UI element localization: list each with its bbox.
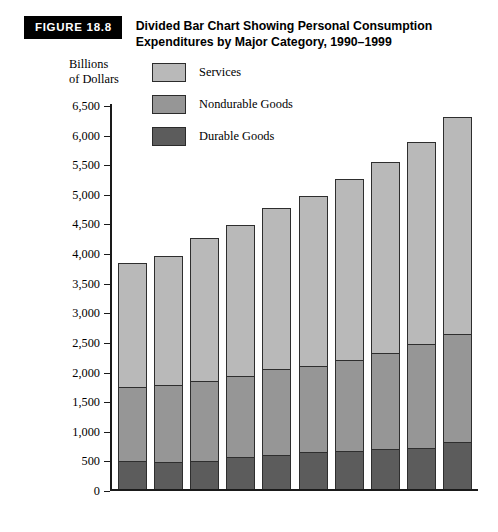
y-axis-line — [110, 104, 112, 491]
y-axis-tick-label: 3,000 — [72, 306, 100, 321]
bar-segment-services — [443, 117, 472, 334]
bar-segment-durable-goods — [443, 442, 472, 489]
y-axis-tick — [104, 106, 110, 107]
y-axis-tick — [104, 432, 110, 433]
legend-item-services: Services — [152, 63, 293, 82]
y-axis-tick — [104, 343, 110, 344]
y-axis-tick — [104, 224, 110, 225]
bar-segment-nondurable-goods — [407, 344, 436, 448]
bar-segment-nondurable-goods — [262, 369, 291, 454]
bar-segment-nondurable-goods — [190, 381, 219, 461]
y-axis-tick — [104, 461, 110, 462]
y-axis-tick-label: 2,000 — [72, 365, 100, 380]
y-axis-tick — [104, 402, 110, 403]
bar-segment-services — [262, 208, 291, 369]
bar-group — [114, 104, 476, 489]
bar-1997 — [371, 162, 400, 489]
bar-segment-nondurable-goods — [335, 360, 364, 451]
y-axis-tick — [104, 373, 110, 374]
bar-segment-nondurable-goods — [371, 353, 400, 449]
bar-segment-services — [335, 179, 364, 361]
bar-1993 — [226, 225, 255, 489]
bar-segment-services — [371, 162, 400, 353]
bar-segment-durable-goods — [118, 461, 147, 489]
y-axis-tick — [104, 491, 110, 492]
bar-1990 — [118, 263, 147, 489]
y-axis-tick — [104, 165, 110, 166]
y-axis-tick-label: 5,000 — [72, 187, 100, 202]
bar-1999 — [443, 117, 472, 489]
bar-segment-nondurable-goods — [118, 387, 147, 461]
legend-swatch-icon — [152, 63, 186, 82]
bar-segment-durable-goods — [190, 461, 219, 489]
y-axis-title-line-2: of Dollars — [69, 72, 119, 87]
y-axis-tick-label: 2,500 — [72, 335, 100, 350]
bar-segment-nondurable-goods — [226, 376, 255, 457]
bar-segment-services — [154, 256, 183, 385]
figure-title-line-2: Expenditures by Major Category, 1990–199… — [136, 34, 433, 50]
figure-number-badge: FIGURE 18.8 — [24, 16, 122, 39]
y-axis-tick — [104, 136, 110, 137]
bar-segment-services — [118, 263, 147, 387]
y-axis-tick-label: 4,500 — [72, 217, 100, 232]
bar-segment-services — [299, 196, 328, 366]
bar-segment-durable-goods — [407, 448, 436, 489]
y-axis-tick-label: 6,500 — [72, 99, 100, 114]
legend-label: Services — [199, 65, 241, 80]
bar-segment-nondurable-goods — [443, 334, 472, 442]
bar-1998 — [407, 142, 436, 489]
y-axis-tick — [104, 195, 110, 196]
figure-title: Divided Bar Chart Showing Personal Consu… — [136, 16, 433, 51]
bar-1995 — [299, 196, 328, 489]
y-axis-tick-label: 4,000 — [72, 247, 100, 262]
x-axis-baseline — [110, 489, 478, 491]
bar-segment-durable-goods — [262, 455, 291, 489]
y-axis-tick-label: 5,500 — [72, 158, 100, 173]
y-axis-title: Billions of Dollars — [69, 57, 119, 87]
bar-segment-durable-goods — [299, 452, 328, 489]
y-axis-tick-label: 6,000 — [72, 128, 100, 143]
bar-segment-durable-goods — [226, 457, 255, 489]
bar-segment-services — [407, 142, 436, 344]
chart-plot-area: 05001,0001,5002,0002,5003,0003,5004,0004… — [110, 104, 478, 491]
figure-header: FIGURE 18.8 Divided Bar Chart Showing Pe… — [24, 16, 476, 51]
figure-title-line-1: Divided Bar Chart Showing Personal Consu… — [136, 18, 433, 34]
bar-segment-durable-goods — [371, 449, 400, 489]
bar-segment-durable-goods — [154, 462, 183, 489]
bar-segment-nondurable-goods — [299, 366, 328, 452]
y-axis-tick-label: 0 — [94, 484, 100, 499]
bar-1991 — [154, 256, 183, 489]
bar-segment-durable-goods — [335, 451, 364, 489]
y-axis-title-line-1: Billions — [69, 57, 119, 72]
bar-1992 — [190, 238, 219, 489]
y-axis-tick-label: 1,500 — [72, 395, 100, 410]
bar-segment-nondurable-goods — [154, 385, 183, 463]
bar-segment-services — [226, 225, 255, 376]
bar-segment-services — [190, 238, 219, 381]
bar-1996 — [335, 179, 364, 489]
y-axis-tick-label: 1,000 — [72, 424, 100, 439]
y-axis-tick-label: 3,500 — [72, 276, 100, 291]
y-axis-tick — [104, 254, 110, 255]
bar-1994 — [262, 208, 291, 489]
y-axis-tick — [104, 284, 110, 285]
y-axis-tick — [104, 313, 110, 314]
y-axis-tick-label: 500 — [82, 454, 100, 469]
